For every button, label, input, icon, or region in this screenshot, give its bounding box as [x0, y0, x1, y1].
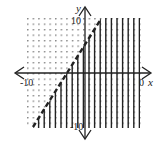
x-axis-label: x: [148, 77, 153, 88]
y-max-tick-label: 10: [71, 16, 81, 26]
y-min-tick-label: -10: [70, 122, 83, 132]
y-axis-label: y: [76, 3, 81, 14]
x-min-tick-label: -10: [20, 78, 33, 88]
x-max-tick-label: 0: [139, 78, 144, 88]
